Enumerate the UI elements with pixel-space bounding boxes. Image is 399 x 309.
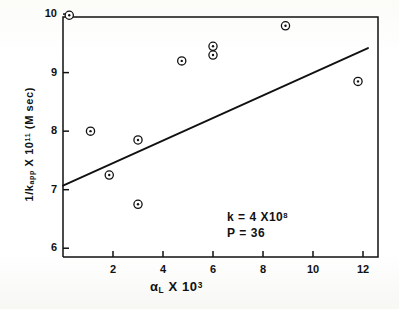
annotation-k-base: 10 [269, 210, 283, 224]
axes-frame [63, 17, 378, 257]
y-axis-ticks [63, 14, 69, 248]
x-tick-label: 6 [199, 263, 227, 275]
data-point [209, 42, 217, 50]
annotation-k-coefficient: 4 [249, 210, 256, 224]
y-axis-times: X [23, 159, 35, 167]
annotation-p-equals: = [239, 226, 247, 240]
annotation-p-number: 36 [251, 226, 265, 240]
x-tick-label: 2 [99, 263, 127, 275]
y-axis-subscript: app [28, 170, 35, 184]
annotation-k-equals: = [238, 210, 246, 224]
x-tick-label: 8 [249, 263, 277, 275]
annotation-k-times: X [260, 210, 269, 224]
y-tick-label: 10 [31, 7, 57, 19]
data-point [209, 51, 217, 59]
annotation-p-label: P [227, 226, 236, 240]
x-axis-exponent: 3 [198, 280, 203, 290]
data-point [105, 171, 113, 179]
y-tick-label: 6 [31, 241, 57, 253]
x-axis-base: 10 [182, 279, 198, 294]
data-point [354, 77, 362, 85]
data-point [134, 200, 142, 208]
x-tick-label: 10 [299, 263, 327, 275]
x-axis-ticks [113, 251, 363, 257]
x-axis-times: X [169, 279, 178, 294]
data-points [65, 11, 362, 208]
x-tick-label: 12 [349, 263, 377, 275]
annotation-rate-constant: k = 4 X108 [227, 210, 288, 224]
x-axis-subscript: L [159, 285, 165, 295]
figure-container: 24681012 109876 1/kapp X 1011 (M sec) αL… [0, 0, 399, 309]
y-axis-units: (M sec) [23, 87, 35, 129]
data-point [281, 22, 289, 30]
annotation-p-value: P = 36 [227, 226, 265, 240]
x-axis-symbol: α [150, 279, 159, 294]
y-axis-prefix: 1/k [23, 184, 35, 201]
data-point [134, 136, 142, 144]
regression-line [63, 48, 368, 186]
y-axis-title: 1/kapp X 1011 (M sec) [23, 49, 36, 239]
data-point [86, 127, 94, 135]
data-point [178, 57, 186, 65]
x-tick-label: 4 [149, 263, 177, 275]
y-axis-exponent: 11 [24, 133, 31, 142]
x-axis-title: αL X 103 [150, 279, 203, 295]
y-axis-base: 10 [23, 141, 35, 154]
annotation-k-label: k [227, 210, 234, 224]
annotation-k-exponent: 8 [283, 211, 288, 220]
data-point [65, 11, 73, 19]
